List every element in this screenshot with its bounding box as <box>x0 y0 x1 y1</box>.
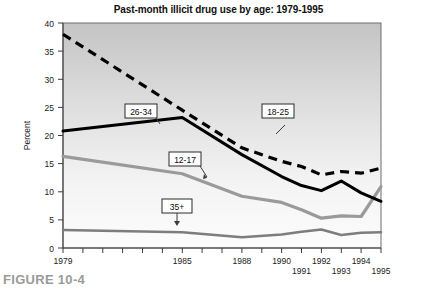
x-tick-label-1995: 1995 <box>372 266 391 276</box>
y-tick-label: 0 <box>49 244 54 254</box>
x-axis-ticks <box>63 248 381 253</box>
y-axis-tick-labels: 40 35 30 25 20 15 10 5 0 <box>45 19 55 254</box>
callout-label-12-17: 12-17 <box>174 155 196 165</box>
x-tick-label-1988: 1988 <box>232 256 251 266</box>
y-tick-label: 20 <box>45 131 55 141</box>
callout-box-12-17[interactable]: 12-17 <box>169 152 201 166</box>
x-tick-label-1985: 1985 <box>173 256 192 266</box>
x-tick-label-1979: 1979 <box>54 256 73 266</box>
y-axis-title: Percent <box>22 120 32 150</box>
y-tick-label: 30 <box>45 75 55 85</box>
callout-box-26-34[interactable]: 26-34 <box>125 104 157 118</box>
x-tick-label-1993: 1993 <box>332 266 351 276</box>
y-tick-label: 40 <box>45 19 55 29</box>
x-tick-label-1991: 1991 <box>292 266 311 276</box>
callout-label-18-25: 18-25 <box>267 107 289 117</box>
y-axis-ticks <box>58 23 63 248</box>
figure-container: Past-month illicit drug use by age: 1979… <box>0 0 437 293</box>
y-tick-label: 10 <box>45 187 55 197</box>
y-tick-label: 15 <box>45 159 55 169</box>
figure-caption: FIGURE 10-4 <box>3 272 85 287</box>
line-chart: 40 35 30 25 20 15 10 5 0 Percent <box>0 0 437 293</box>
callout-box-35plus[interactable]: 35+ <box>162 199 192 213</box>
x-axis-tick-labels: 1979 1985 1988 1990 1991 1992 1993 1994 … <box>54 256 391 276</box>
x-tick-label-1994: 1994 <box>352 256 371 266</box>
x-tick-label-1990: 1990 <box>272 256 291 266</box>
y-tick-label: 35 <box>45 47 55 57</box>
y-tick-label: 25 <box>45 103 55 113</box>
callout-label-26-34: 26-34 <box>130 107 152 117</box>
callout-box-18-25[interactable]: 18-25 <box>262 104 294 118</box>
callout-label-35plus: 35+ <box>170 202 184 212</box>
x-tick-label-1992: 1992 <box>312 256 331 266</box>
y-tick-label: 5 <box>49 215 54 225</box>
